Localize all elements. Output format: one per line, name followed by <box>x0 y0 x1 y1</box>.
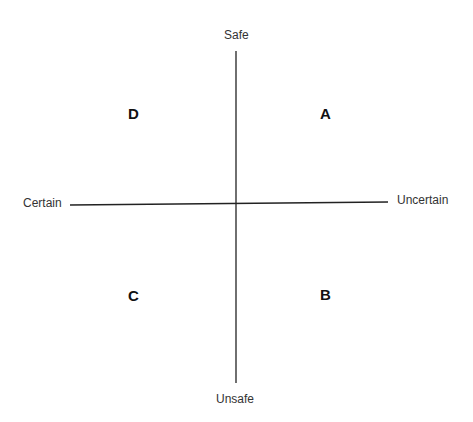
quadrant-b: B <box>320 286 331 303</box>
label-certain: Certain <box>23 196 62 210</box>
quadrant-d: D <box>128 105 139 122</box>
label-unsafe: Unsafe <box>216 392 254 406</box>
quadrant-c: C <box>128 287 139 304</box>
horizontal-axis <box>70 202 388 205</box>
label-uncertain: Uncertain <box>397 193 448 207</box>
axes-lines <box>0 0 473 422</box>
label-safe: Safe <box>224 28 249 42</box>
quadrant-a: A <box>320 105 331 122</box>
